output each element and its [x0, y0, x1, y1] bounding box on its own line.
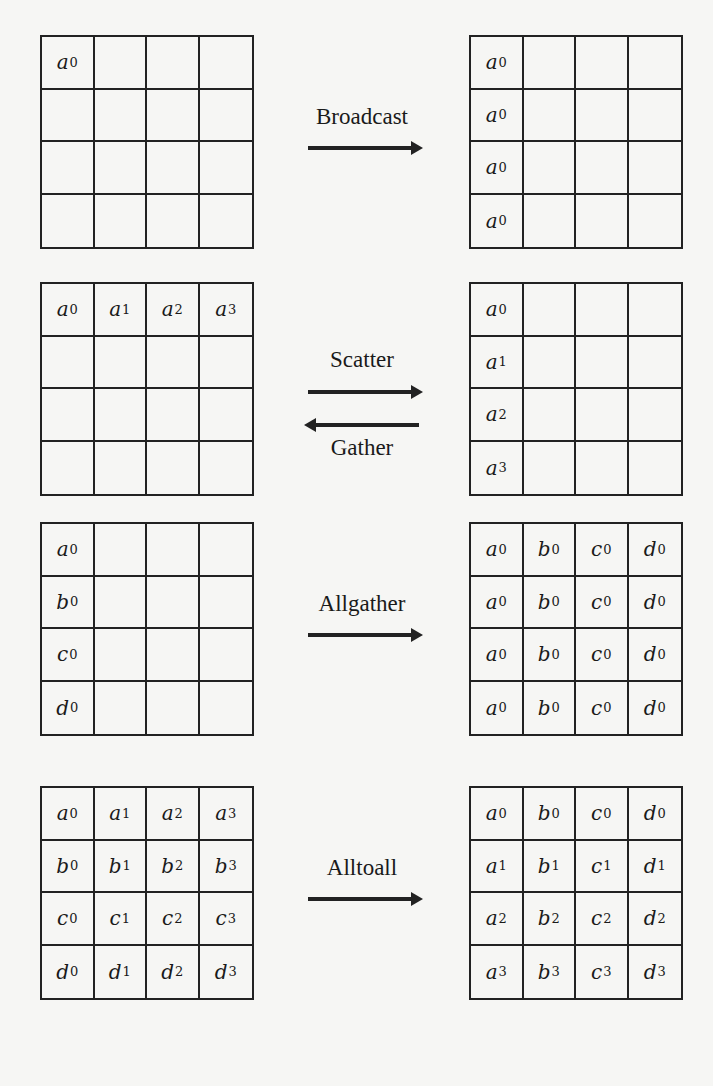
- grid-cell: [200, 442, 253, 495]
- grid-cell: a1: [95, 788, 148, 841]
- grid-cell: b0: [524, 629, 577, 682]
- grid-cell: [95, 337, 148, 390]
- grid-cell: b1: [524, 841, 577, 894]
- grid-cell: [147, 337, 200, 390]
- grid-cell: [95, 389, 148, 442]
- allgather-before-grid: a0b0c0d0: [40, 522, 254, 736]
- scatter-before-grid: a0a1a2a3: [40, 282, 254, 496]
- allgather-after-grid: a0b0c0d0a0b0c0d0a0b0c0d0a0b0c0d0: [469, 522, 683, 736]
- grid-cell: a0: [471, 524, 524, 577]
- grid-cell: b2: [147, 841, 200, 894]
- grid-cell: b0: [42, 841, 95, 894]
- broadcast-label: Broadcast: [302, 104, 422, 130]
- grid-cell: d0: [629, 788, 682, 841]
- grid-cell: [147, 629, 200, 682]
- grid-cell: c2: [576, 893, 629, 946]
- grid-cell: [576, 195, 629, 248]
- grid-cell: a0: [471, 90, 524, 143]
- grid-cell: [200, 389, 253, 442]
- grid-cell: a0: [471, 788, 524, 841]
- scatter-label: Scatter: [302, 347, 422, 373]
- grid-cell: [200, 90, 253, 143]
- grid-cell: a0: [471, 195, 524, 248]
- grid-cell: [200, 142, 253, 195]
- grid-cell: b0: [524, 577, 577, 630]
- grid-cell: c0: [42, 629, 95, 682]
- grid-cell: [200, 37, 253, 90]
- grid-cell: a0: [42, 788, 95, 841]
- grid-cell: d1: [95, 946, 148, 999]
- grid-cell: b2: [524, 893, 577, 946]
- grid-cell: a3: [200, 788, 253, 841]
- grid-cell: [576, 337, 629, 390]
- grid-cell: d0: [629, 682, 682, 735]
- grid-cell: b0: [524, 682, 577, 735]
- grid-cell: [629, 142, 682, 195]
- grid-cell: a1: [471, 841, 524, 894]
- grid-cell: [629, 195, 682, 248]
- alltoall-label: Alltoall: [302, 855, 422, 881]
- grid-cell: [576, 142, 629, 195]
- allgather-label: Allgather: [302, 591, 422, 617]
- grid-cell: [629, 389, 682, 442]
- broadcast-after-grid: a0a0a0a0: [469, 35, 683, 249]
- grid-cell: [629, 284, 682, 337]
- grid-cell: [629, 37, 682, 90]
- alltoall-before-grid: a0a1a2a3b0b1b2b3c0c1c2c3d0d1d2d3: [40, 786, 254, 1000]
- grid-cell: [147, 389, 200, 442]
- grid-cell: [95, 37, 148, 90]
- grid-cell: c3: [200, 893, 253, 946]
- grid-cell: [200, 337, 253, 390]
- grid-cell: [95, 442, 148, 495]
- grid-cell: a1: [95, 284, 148, 337]
- scatter-right-arrow-icon: [308, 390, 419, 394]
- grid-cell: c0: [576, 682, 629, 735]
- grid-cell: [629, 337, 682, 390]
- grid-cell: [200, 629, 253, 682]
- grid-cell: [42, 195, 95, 248]
- grid-cell: [200, 577, 253, 630]
- grid-cell: [147, 142, 200, 195]
- grid-cell: b3: [200, 841, 253, 894]
- grid-cell: a2: [147, 284, 200, 337]
- grid-cell: d0: [629, 524, 682, 577]
- grid-cell: a0: [471, 37, 524, 90]
- grid-cell: [524, 284, 577, 337]
- grid-cell: [42, 389, 95, 442]
- grid-cell: c1: [95, 893, 148, 946]
- grid-cell: [524, 442, 577, 495]
- grid-cell: [95, 577, 148, 630]
- grid-cell: d2: [147, 946, 200, 999]
- grid-cell: [95, 142, 148, 195]
- grid-cell: [42, 442, 95, 495]
- grid-cell: d0: [42, 682, 95, 735]
- grid-cell: [42, 90, 95, 143]
- grid-cell: [147, 90, 200, 143]
- grid-cell: b0: [42, 577, 95, 630]
- allgather-right-arrow-icon: [308, 633, 419, 637]
- alltoall-right-arrow-icon: [308, 897, 419, 901]
- grid-cell: a0: [471, 682, 524, 735]
- grid-cell: [95, 195, 148, 248]
- grid-cell: [200, 682, 253, 735]
- grid-cell: [629, 90, 682, 143]
- grid-cell: a0: [471, 284, 524, 337]
- grid-cell: a0: [471, 142, 524, 195]
- grid-cell: [147, 682, 200, 735]
- grid-cell: [576, 90, 629, 143]
- grid-cell: [576, 37, 629, 90]
- grid-cell: a2: [471, 893, 524, 946]
- scatter-after-grid: a0a1a2a3: [469, 282, 683, 496]
- grid-cell: b0: [524, 524, 577, 577]
- grid-cell: [576, 284, 629, 337]
- grid-cell: c0: [576, 577, 629, 630]
- grid-cell: [147, 577, 200, 630]
- gather-left-arrow-icon: [308, 423, 419, 427]
- broadcast-before-grid: a0: [40, 35, 254, 249]
- grid-cell: b0: [524, 788, 577, 841]
- grid-cell: a0: [42, 37, 95, 90]
- gather-label: Gather: [302, 435, 422, 461]
- grid-cell: [524, 90, 577, 143]
- grid-cell: [524, 195, 577, 248]
- grid-cell: a0: [42, 284, 95, 337]
